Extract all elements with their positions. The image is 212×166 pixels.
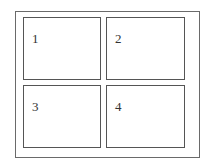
panel-label: 1 (32, 32, 39, 45)
panel-1: 1 (23, 17, 101, 80)
panel-2: 2 (106, 17, 185, 80)
panel-3: 3 (23, 85, 101, 148)
panel-label: 2 (115, 32, 122, 45)
panel-label: 4 (115, 100, 122, 113)
panel-label: 3 (32, 100, 39, 113)
panel-4: 4 (106, 85, 185, 148)
